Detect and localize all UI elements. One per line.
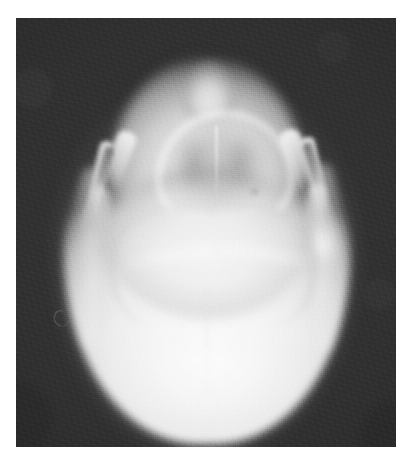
lateral-cortex-left xyxy=(72,168,98,348)
radiograph-film xyxy=(16,18,396,447)
radiograph-page xyxy=(0,0,412,464)
occipital-bone xyxy=(100,348,316,447)
skull-image xyxy=(16,18,396,447)
